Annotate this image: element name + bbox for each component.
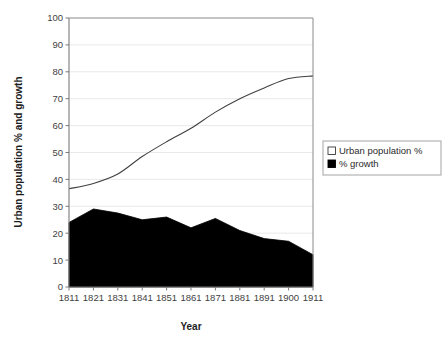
y-tick-label: 40 [52, 174, 63, 185]
x-axis-title: Year [180, 321, 201, 332]
x-tick-label: 1891 [254, 292, 275, 303]
x-tick-label: 1851 [156, 292, 177, 303]
x-tick-label: 1871 [205, 292, 226, 303]
y-tick-label: 60 [52, 120, 63, 131]
y-tick-label: 100 [47, 12, 63, 23]
y-tick-label: 20 [52, 228, 63, 239]
x-tick-label: 1831 [107, 292, 128, 303]
y-tick-label: 70 [52, 93, 63, 104]
x-axis-ticks: 1811182118311841185118611871188118911900… [59, 287, 323, 303]
y-tick-label: 80 [52, 66, 63, 77]
legend: Urban population % % growth [323, 141, 441, 175]
x-tick-label: 1821 [83, 292, 104, 303]
y-tick-label: 90 [52, 39, 63, 50]
x-tick-label: 1861 [180, 292, 201, 303]
x-tick-label: 1900 [278, 292, 299, 303]
x-tick-label: 1841 [132, 292, 153, 303]
chart-container: 0102030405060708090100 18111821183118411… [0, 0, 445, 344]
legend-swatch-growth [328, 160, 336, 168]
x-tick-label: 1881 [229, 292, 250, 303]
y-tick-label: 0 [58, 281, 63, 292]
y-axis-ticks: 0102030405060708090100 [47, 12, 69, 292]
y-tick-label: 50 [52, 147, 63, 158]
chart-svg: 0102030405060708090100 18111821183118411… [0, 0, 445, 344]
x-tick-label: 1811 [59, 292, 79, 303]
y-tick-label: 10 [52, 255, 63, 266]
y-axis-title: Urban population % and growth [13, 76, 24, 227]
legend-label-urban-population: Urban population % [339, 145, 423, 156]
legend-label-growth: % growth [339, 158, 379, 169]
x-tick-label: 1911 [303, 292, 323, 303]
y-tick-label: 30 [52, 201, 63, 212]
legend-swatch-urban-population [328, 147, 336, 155]
